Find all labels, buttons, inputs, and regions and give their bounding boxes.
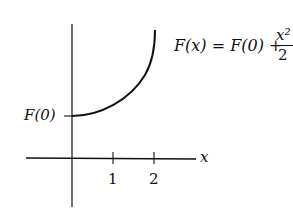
tick-label-2: 2	[149, 170, 159, 188]
formula: F(x) = F(0) +	[174, 36, 282, 55]
formula-eq: =	[212, 36, 225, 55]
y-intercept-label: F(0)	[24, 106, 56, 124]
formula-const: F(0)	[230, 36, 264, 55]
function-graph: F(x) = F(0) + x² 2 F(0) x 1 2	[0, 0, 293, 216]
formula-numerator: x²	[276, 26, 290, 44]
formula-lhs: F(x)	[174, 36, 207, 55]
tick-label-1: 1	[108, 170, 118, 188]
formula-denominator: 2	[278, 46, 288, 64]
curve	[72, 30, 155, 116]
x-axis	[26, 158, 196, 159]
x-axis-label: x	[200, 148, 208, 166]
